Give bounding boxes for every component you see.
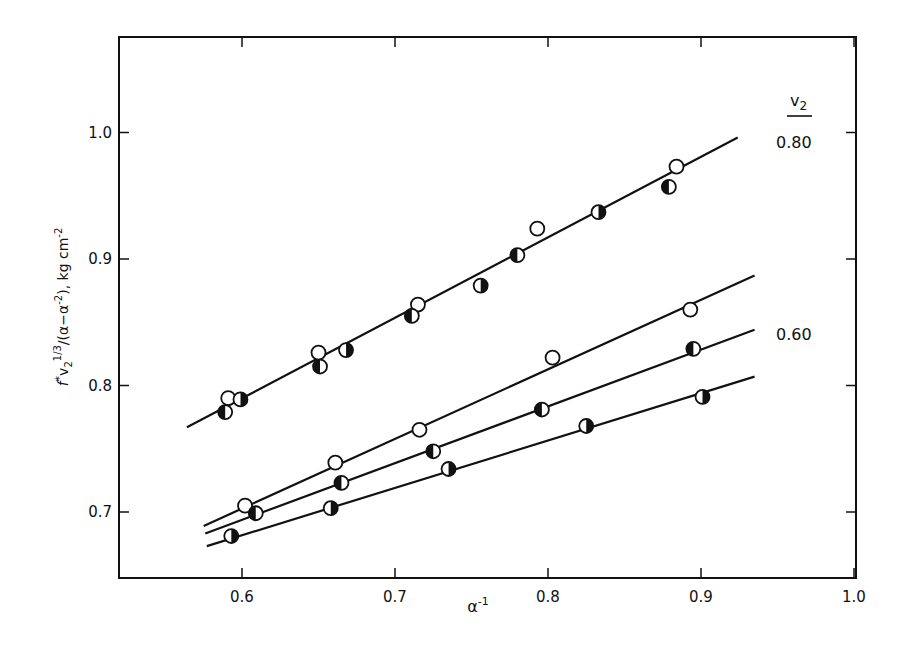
legend-title: v2	[787, 91, 812, 116]
data-point-open	[530, 222, 544, 236]
data-point-left_black	[426, 444, 440, 458]
data-point-open	[328, 456, 342, 470]
data-point-left_black	[535, 403, 549, 417]
data-point-left_black	[249, 506, 263, 520]
svg-text:α-1: α-1	[467, 595, 489, 616]
data-point-right_black	[591, 205, 605, 219]
data-point-left_black	[218, 405, 232, 419]
data-point-right_black	[339, 343, 353, 357]
data-point-open	[546, 351, 560, 365]
y-tick-label: 0.7	[88, 503, 112, 521]
fit-line	[205, 330, 754, 534]
data-point-right_black	[224, 529, 238, 543]
axis-tick-labels: 0.60.70.80.91.00.70.80.91.0	[88, 124, 866, 607]
data-point-left_black	[686, 342, 700, 356]
x-tick-label: 0.8	[536, 588, 560, 606]
fit-line	[207, 377, 755, 547]
data-point-open	[670, 160, 684, 174]
data-point-open	[412, 423, 426, 437]
plot-frame	[119, 37, 856, 578]
x-axis-label: α-1	[467, 595, 489, 616]
fit-lines	[187, 138, 755, 547]
y-tick-label: 1.0	[88, 124, 112, 142]
y-tick-label: 0.9	[88, 250, 112, 268]
y-axis-label: f*v21/3/(α−α-2), kg cm-2	[52, 228, 74, 387]
data-point-left_black	[662, 180, 676, 194]
fit-line	[204, 275, 755, 525]
data-point-open	[312, 346, 326, 360]
x-tick-label: 0.9	[689, 588, 713, 606]
y-tick-label: 0.8	[88, 377, 112, 395]
svg-text:f*v21/3/(α−α-2), kg cm-2: f*v21/3/(α−α-2), kg cm-2	[52, 228, 74, 387]
data-point-right_black	[696, 390, 710, 404]
data-point-open	[683, 303, 697, 317]
data-point-right_black	[233, 392, 247, 406]
data-point-left_black	[313, 360, 327, 374]
x-tick-label: 1.0	[842, 588, 866, 606]
data-point-right_black	[324, 501, 338, 515]
fit-line	[187, 138, 738, 428]
data-point-right_black	[442, 462, 456, 476]
data-point-right_black	[474, 279, 488, 293]
data-point-right_black	[579, 419, 593, 433]
x-tick-label: 0.6	[230, 588, 254, 606]
axis-ticks	[119, 37, 856, 578]
chart: 0.60.70.80.91.00.70.80.91.0 α-1 f*v21/3/…	[0, 0, 913, 648]
group-label-080: 0.80	[776, 133, 812, 152]
data-point-left_black	[405, 309, 419, 323]
data-point-left_black	[334, 476, 348, 490]
data-point-left_black	[510, 248, 524, 262]
svg-text:v2: v2	[790, 91, 807, 113]
x-tick-label: 0.7	[383, 588, 407, 606]
group-label-060: 0.60	[776, 325, 812, 344]
